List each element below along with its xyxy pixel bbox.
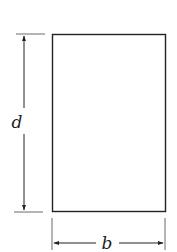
rectangle-section xyxy=(53,35,166,212)
cross-section-diagram: d b xyxy=(0,0,177,252)
label-d: d xyxy=(12,112,23,132)
label-b: b xyxy=(102,233,113,252)
